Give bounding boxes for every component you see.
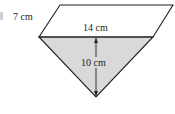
composite-shape-diagram: 7 cm 14 cm 10 cm [0,0,175,114]
base-label: 14 cm [83,22,108,33]
slant-side-label: 7 cm [13,11,33,22]
left-edge-mark [0,12,3,20]
height-label: 10 cm [81,57,106,68]
